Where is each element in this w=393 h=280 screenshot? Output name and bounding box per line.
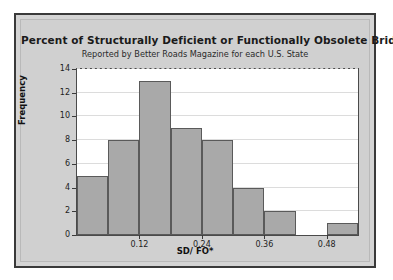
chart-subtitle: Reported by Better Roads Magazine for ea…: [21, 49, 369, 59]
y-tick-mark: [72, 211, 76, 212]
bar-series: [77, 69, 358, 235]
bar: [202, 140, 233, 235]
chart-page: Percent of Structurally Deficient or Fun…: [0, 0, 393, 280]
y-tick-label: 2: [48, 206, 70, 215]
plot-area: [76, 68, 359, 236]
bar: [108, 140, 139, 235]
y-tick-label: 12: [48, 88, 70, 97]
y-tick-label: 4: [48, 183, 70, 192]
y-tick-label: 14: [48, 64, 70, 73]
y-tick-mark: [72, 235, 76, 236]
y-tick-label: 6: [48, 159, 70, 168]
x-tick-mark: [327, 235, 328, 239]
bar: [233, 188, 264, 235]
bar: [264, 211, 295, 235]
bar: [139, 81, 170, 235]
x-axis-label: SD/ FO*: [21, 246, 369, 256]
y-tick-mark: [72, 116, 76, 117]
y-tick-label: 10: [48, 111, 70, 120]
bar: [77, 176, 108, 235]
figure-frame: Percent of Structurally Deficient or Fun…: [14, 13, 376, 268]
bar: [327, 223, 358, 235]
y-tick-mark: [72, 69, 76, 70]
chart-title: Percent of Structurally Deficient or Fun…: [21, 34, 369, 46]
y-tick-label: 8: [48, 135, 70, 144]
y-axis-label: Frequency: [17, 75, 27, 125]
x-tick-mark: [264, 235, 265, 239]
bar: [171, 128, 202, 235]
y-tick-label: 0: [48, 230, 70, 239]
figure-panel: Percent of Structurally Deficient or Fun…: [20, 19, 370, 262]
y-tick-mark: [72, 140, 76, 141]
y-tick-mark: [72, 188, 76, 189]
x-tick-mark: [139, 235, 140, 239]
y-tick-mark: [72, 164, 76, 165]
y-tick-mark: [72, 93, 76, 94]
x-tick-mark: [202, 235, 203, 239]
